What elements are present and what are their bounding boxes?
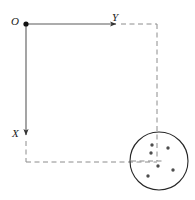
point-mark	[171, 168, 174, 171]
origin-dot	[23, 21, 28, 26]
point-mark	[146, 174, 149, 177]
point-mark	[156, 164, 159, 167]
y-axis-label: Y	[112, 12, 118, 23]
coordinate-diagram	[0, 0, 195, 200]
point-mark	[150, 143, 153, 146]
dashed-construction-lines	[26, 24, 163, 162]
x-axis-label: X	[12, 128, 19, 139]
point-mark	[166, 146, 169, 149]
origin-label: O	[11, 16, 19, 27]
axes-group	[23, 21, 116, 135]
point-mark	[149, 151, 152, 154]
figure-canvas: O Y X	[0, 0, 195, 200]
